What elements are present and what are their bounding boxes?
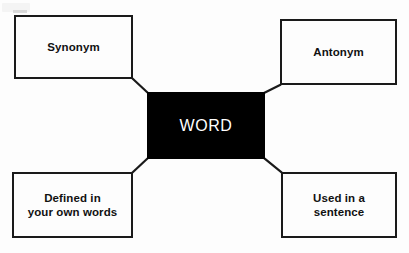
node-sentence-label: Used in a sentence xyxy=(313,191,365,219)
node-antonym-label: Antonym xyxy=(313,45,364,59)
connector-synonym-to-center xyxy=(133,79,148,93)
node-synonym[interactable]: Synonym xyxy=(14,15,133,79)
node-synonym-label: Synonym xyxy=(47,40,99,54)
connector-defined-to-center xyxy=(133,158,148,172)
word-map-diagram: Synonym Antonym WORD Defined in your own… xyxy=(0,0,409,253)
node-center-label: WORD xyxy=(179,116,232,136)
node-defined-label: Defined in your own words xyxy=(28,191,118,219)
connector-sentence-to-center xyxy=(264,158,281,172)
node-antonym[interactable]: Antonym xyxy=(280,19,397,85)
connector-antonym-to-center xyxy=(264,85,280,93)
node-defined-in-own-words[interactable]: Defined in your own words xyxy=(12,172,133,238)
node-center-word[interactable]: WORD xyxy=(147,92,265,159)
node-used-in-a-sentence[interactable]: Used in a sentence xyxy=(281,172,397,238)
